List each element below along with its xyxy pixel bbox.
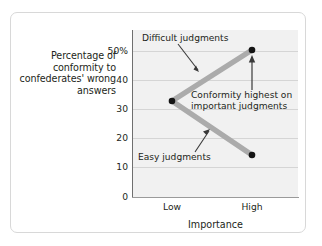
conformity-line-chart: Percentage of conformity to confederates…: [0, 0, 322, 246]
datapoint-low: [169, 98, 176, 105]
annotation-conformity-highest: Conformity highest on important judgment…: [191, 90, 292, 112]
arrow-easy: [195, 129, 210, 152]
datapoint-high-easy: [249, 152, 256, 159]
annotation-difficult-judgments: Difficult judgments: [142, 33, 228, 44]
arrow-difficult: [178, 44, 199, 72]
annotation-easy-judgments: Easy judgments: [138, 152, 211, 163]
arrow-conformity: [249, 55, 255, 90]
datapoint-high-difficult: [249, 47, 256, 54]
